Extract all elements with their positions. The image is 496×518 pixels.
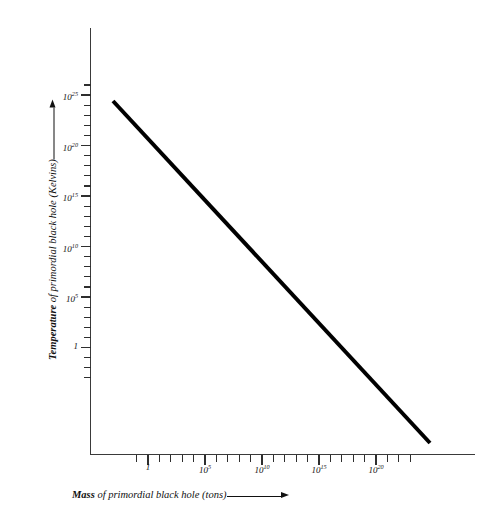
y-axis-title-rest: of primordial black hole (Kelvins): [47, 159, 58, 305]
series-line-hawking: [113, 101, 430, 443]
y-axis-title-emphasis: Temperature: [47, 305, 58, 360]
x-axis-title-rest: of primordial black hole (tons): [95, 489, 227, 500]
data-series-layer: [0, 0, 496, 518]
x-axis-title: Mass of primordial black hole (tons): [72, 489, 289, 500]
y-axis-arrow-icon: [49, 99, 57, 159]
x-axis-arrow-icon: [227, 492, 289, 500]
y-axis-title: Temperature of primordial black hole (Ke…: [47, 80, 58, 380]
chart-figure: 102510201015101010511105101010151020 Mas…: [0, 0, 496, 518]
x-axis-title-emphasis: Mass: [72, 489, 95, 500]
